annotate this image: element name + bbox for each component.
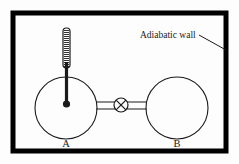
vessel-a-label: A xyxy=(62,138,70,149)
thermodynamics-diagram: Adiabatic wall A B xyxy=(0,0,239,164)
diagram-background xyxy=(0,0,239,164)
thermometer-bulb xyxy=(63,100,70,107)
adiabatic-wall-label: Adiabatic wall xyxy=(140,30,196,40)
figure-canvas: Adiabatic wall A B xyxy=(0,0,239,164)
vessel-b-label: B xyxy=(173,138,180,149)
